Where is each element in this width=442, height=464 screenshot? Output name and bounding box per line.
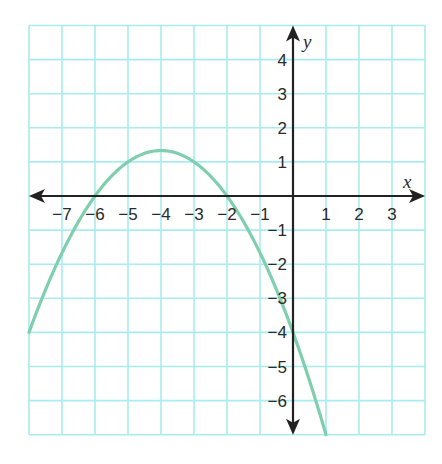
- x-tick-label: −3: [184, 205, 203, 224]
- y-axis-label: y: [301, 31, 312, 52]
- x-axis-label: x: [402, 171, 412, 192]
- grid: [29, 26, 425, 435]
- y-tick-label: −1: [268, 221, 287, 240]
- x-tick-label: −5: [118, 205, 137, 224]
- x-tick-label: −4: [151, 205, 170, 224]
- x-tick-label: −6: [85, 205, 104, 224]
- y-tick-label: 4: [278, 51, 287, 70]
- y-tick-label: −2: [268, 255, 287, 274]
- y-tick-label: −4: [268, 323, 287, 342]
- parabola-chart: −7−6−5−4−3−2−11234321−1−2−3−4−5−6 x y: [0, 0, 442, 464]
- y-tick-label: −5: [268, 358, 287, 377]
- x-tick-label: −7: [52, 205, 71, 224]
- y-tick-label: 1: [278, 153, 287, 172]
- y-tick-label: −6: [268, 392, 287, 411]
- x-tick-label: −2: [217, 205, 236, 224]
- x-tick-label: 2: [354, 205, 363, 224]
- y-tick-label: 2: [278, 119, 287, 138]
- y-tick-label: −3: [268, 289, 287, 308]
- x-tick-label: 3: [387, 205, 396, 224]
- y-tick-label: 3: [278, 85, 287, 104]
- x-tick-label: 1: [321, 205, 330, 224]
